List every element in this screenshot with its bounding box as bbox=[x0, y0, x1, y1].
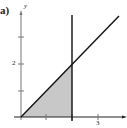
plot-area bbox=[0, 0, 127, 128]
x-axis-arrow-icon bbox=[122, 116, 127, 119]
x-tick-label-3: 3 bbox=[96, 120, 100, 127]
y-axis-label: y bbox=[24, 3, 27, 10]
y-axis-arrow-icon bbox=[20, 10, 23, 15]
y-tick-label-2: 2 bbox=[12, 60, 16, 67]
